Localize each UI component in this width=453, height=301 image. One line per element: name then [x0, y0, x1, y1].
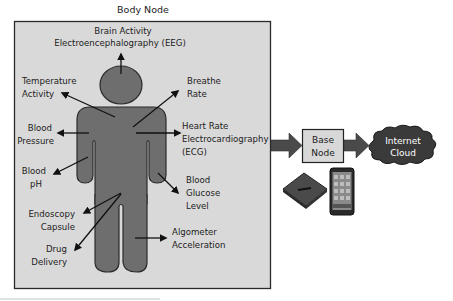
- smartphone-icon: [330, 168, 354, 215]
- svg-text:Pressure: Pressure: [17, 136, 54, 146]
- svg-text:Brain Activity: Brain Activity: [94, 26, 151, 36]
- body-node-title: Body Node: [117, 4, 169, 15]
- bottom-shadow-line: [0, 298, 160, 300]
- svg-text:Base: Base: [312, 135, 334, 145]
- svg-text:Algometer: Algometer: [172, 227, 217, 237]
- flow-arrow-base-to-cloud: [344, 133, 369, 158]
- flow-arrow-body-to-base: [271, 133, 302, 158]
- svg-text:Level: Level: [186, 201, 209, 211]
- svg-text:Node: Node: [311, 148, 335, 158]
- svg-text:Blood: Blood: [28, 123, 52, 133]
- internet-cloud-icon: Internet Cloud: [369, 125, 436, 164]
- gateway-device-icon: [283, 173, 327, 209]
- svg-text:Breathe: Breathe: [187, 76, 221, 86]
- svg-text:Blood: Blood: [22, 166, 46, 176]
- svg-text:Glucose: Glucose: [186, 188, 220, 198]
- svg-text:Blood: Blood: [186, 175, 210, 185]
- svg-text:Electroencephalography (EEG): Electroencephalography (EEG): [54, 38, 186, 48]
- svg-text:Electrocardiography: Electrocardiography: [182, 134, 269, 144]
- svg-text:Acceleration: Acceleration: [172, 240, 225, 250]
- svg-text:Internet: Internet: [385, 136, 421, 146]
- svg-text:Rate: Rate: [187, 89, 207, 99]
- svg-text:Temperature: Temperature: [21, 76, 76, 86]
- svg-text:pH: pH: [30, 179, 42, 189]
- svg-text:Endoscopy: Endoscopy: [28, 209, 75, 219]
- svg-text:(ECG): (ECG): [182, 147, 207, 157]
- svg-text:Drug: Drug: [46, 244, 67, 254]
- svg-text:Capsule: Capsule: [41, 222, 75, 232]
- svg-text:Cloud: Cloud: [390, 148, 416, 158]
- body-area-network-diagram: Body Node Brain Activity Electroencephal…: [0, 0, 453, 301]
- svg-text:Delivery: Delivery: [31, 257, 67, 267]
- svg-text:Heart Rate: Heart Rate: [182, 121, 228, 131]
- base-node: Base Node: [303, 130, 344, 163]
- svg-text:Activity: Activity: [22, 89, 54, 99]
